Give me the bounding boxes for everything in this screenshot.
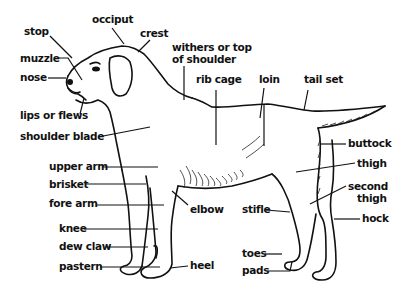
label-lips-or-flews: lips or flews <box>20 110 88 121</box>
label-thigh: thigh <box>357 158 387 169</box>
label-knee: knee <box>59 223 87 234</box>
label-fore-arm: fore arm <box>49 198 98 209</box>
label-buttock: buttock <box>348 138 391 149</box>
label-dew-claw: dew claw <box>59 241 111 252</box>
label-brisket: brisket <box>49 179 88 190</box>
label-muzzle: muzzle <box>20 53 60 64</box>
label-toes: toes <box>242 248 266 259</box>
label-shoulder-blade: shoulder blade <box>20 131 104 142</box>
label-rib-cage: rib cage <box>196 74 242 85</box>
label-second-thigh-line1: second <box>348 181 388 192</box>
label-occiput: occiput <box>92 14 133 25</box>
label-hock: hock <box>362 213 389 224</box>
label-upper-arm: upper arm <box>49 161 108 172</box>
label-second-thigh-line2: thigh <box>357 193 387 204</box>
label-stifle: stifle <box>242 204 270 215</box>
label-nose: nose <box>20 72 47 83</box>
label-crest: crest <box>140 28 168 39</box>
label-pastern: pastern <box>59 261 103 272</box>
label-pads: pads <box>242 265 269 276</box>
label-tail-set: tail set <box>304 74 343 85</box>
dog-anatomy-diagram: stop occiput crest muzzle nose lips or f… <box>0 0 403 291</box>
label-elbow: elbow <box>190 204 224 215</box>
label-stop: stop <box>24 26 49 37</box>
label-withers-line1: withers or top <box>172 42 252 53</box>
label-loin: loin <box>259 74 280 85</box>
label-heel: heel <box>190 260 214 271</box>
label-withers-line2: of shoulder <box>172 54 236 65</box>
